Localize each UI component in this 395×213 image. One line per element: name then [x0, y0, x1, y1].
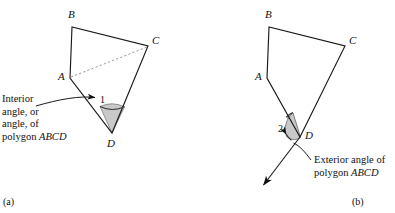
geometry-figure: B C A D 1 Interior angle, or angle, of p… — [0, 0, 395, 213]
polygon-abcd-outline — [267, 27, 345, 137]
interior-angle-callout-line-1: Interior — [2, 93, 66, 106]
interior-angle-callout-line-3: angle, of — [2, 118, 66, 131]
panel-a-vertex-label-b: B — [68, 8, 75, 20]
panel-b-vertex-label-c: C — [349, 34, 356, 46]
side-cd-extension-ray — [264, 137, 301, 185]
exterior-angle-callout-text: Exterior angle of polygon ABCD — [314, 154, 385, 179]
panel-b-label: (b) — [352, 196, 364, 207]
panel-b-vertex-label-b: B — [265, 8, 272, 20]
panel-a-vertex-label-a: A — [58, 70, 65, 82]
panel-a-angle-number-1: 1 — [100, 94, 105, 105]
interior-angle-callout-line-4-text: polygon — [2, 131, 39, 142]
interior-angle-callout-line-2: angle, or — [2, 106, 66, 119]
exterior-angle-callout-line-1: Exterior angle of — [314, 154, 385, 167]
exterior-angle-leader-line — [294, 143, 312, 160]
panel-a-label: (a) — [3, 196, 14, 207]
panel-a-vertex-label-c: C — [152, 34, 159, 46]
interior-angle-callout-text: Interior angle, or angle, of polygon ABC… — [2, 93, 66, 143]
interior-angle-callout-polygon-name: ABCD — [39, 131, 66, 142]
panel-b-vertex-label-a: A — [255, 70, 262, 82]
panel-b-vertex-label-d: D — [305, 129, 313, 141]
exterior-angle-callout-line-2-text: polygon — [314, 167, 351, 178]
exterior-angle-callout-polygon-name: ABCD — [351, 167, 378, 178]
panel-b-angle-number-2: 2 — [278, 123, 283, 134]
exterior-angle-callout-line-2: polygon ABCD — [314, 167, 385, 180]
diagonal-ac-dashed — [71, 47, 147, 77]
panel-a-vertex-label-d: D — [107, 137, 115, 149]
interior-angle-callout-line-4: polygon ABCD — [2, 131, 66, 144]
